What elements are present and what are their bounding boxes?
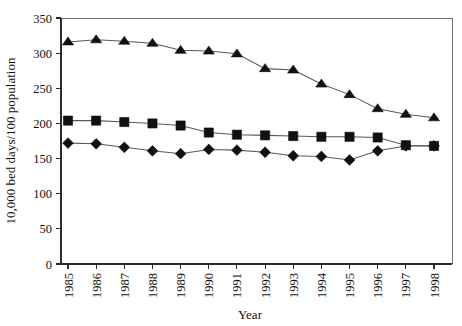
data-series-square bbox=[63, 116, 438, 151]
data-point-square-icon bbox=[373, 133, 382, 142]
y-tick-label: 250 bbox=[33, 82, 52, 96]
data-point-square-icon bbox=[204, 128, 213, 137]
x-tick-label: 1990 bbox=[202, 273, 216, 298]
data-point-diamond-icon bbox=[63, 138, 74, 149]
data-series-triangle bbox=[62, 35, 439, 121]
x-tick-label: 1996 bbox=[371, 273, 385, 298]
x-tick-label: 1993 bbox=[287, 273, 301, 298]
data-point-square-icon bbox=[317, 132, 326, 141]
data-point-triangle-icon bbox=[372, 104, 383, 112]
data-point-diamond-icon bbox=[119, 142, 130, 153]
y-tick-label: 100 bbox=[33, 187, 52, 201]
y-axis-title: 10,000 bed days/100 population bbox=[3, 57, 18, 224]
data-point-square-icon bbox=[289, 131, 298, 140]
y-tick-label: 0 bbox=[46, 258, 52, 272]
y-tick-label: 300 bbox=[33, 47, 52, 61]
data-point-square-icon bbox=[120, 117, 129, 126]
data-point-triangle-icon bbox=[316, 79, 327, 87]
data-point-square-icon bbox=[345, 132, 354, 141]
x-tick-label: 1995 bbox=[343, 273, 357, 298]
y-tick-label: 200 bbox=[33, 117, 52, 131]
data-point-diamond-icon bbox=[147, 145, 158, 156]
data-point-diamond-icon bbox=[175, 148, 186, 159]
data-point-diamond-icon bbox=[316, 151, 327, 162]
y-tick-label: 350 bbox=[33, 12, 52, 26]
data-point-diamond-icon bbox=[288, 150, 299, 161]
data-point-triangle-icon bbox=[288, 65, 299, 73]
data-point-triangle-icon bbox=[119, 36, 130, 44]
data-point-square-icon bbox=[176, 121, 185, 130]
x-tick-label: 1986 bbox=[90, 273, 104, 298]
plot-frame bbox=[61, 18, 452, 264]
x-axis-title: Year bbox=[238, 307, 263, 322]
data-series-group bbox=[62, 35, 439, 166]
x-tick-label: 1985 bbox=[62, 273, 76, 298]
x-tick-label: 1997 bbox=[399, 273, 413, 298]
data-point-triangle-icon bbox=[231, 49, 242, 57]
x-tick-label: 1988 bbox=[146, 273, 160, 298]
x-tick-label: 1989 bbox=[174, 273, 188, 298]
data-point-diamond-icon bbox=[232, 145, 243, 156]
data-point-diamond-icon bbox=[260, 147, 271, 158]
x-tick-label: 1994 bbox=[315, 272, 329, 298]
data-point-triangle-icon bbox=[259, 64, 270, 72]
chart-canvas: 050100150200250300350 198519861987198819… bbox=[0, 0, 462, 326]
x-axis-ticks: 1985198619871988198919901991199219931994… bbox=[62, 264, 442, 298]
data-series-diamond bbox=[63, 138, 440, 166]
data-point-triangle-icon bbox=[203, 46, 214, 54]
y-tick-label: 150 bbox=[33, 152, 52, 166]
x-tick-label: 1992 bbox=[259, 273, 273, 298]
x-tick-label: 1991 bbox=[230, 273, 244, 298]
data-point-square-icon bbox=[148, 119, 157, 128]
data-point-triangle-icon bbox=[147, 38, 158, 46]
data-point-diamond-icon bbox=[372, 145, 383, 156]
data-point-square-icon bbox=[92, 116, 101, 125]
data-point-square-icon bbox=[63, 116, 72, 125]
data-point-square-icon bbox=[260, 131, 269, 140]
y-axis-ticks: 050100150200250300350 bbox=[33, 12, 61, 272]
data-point-diamond-icon bbox=[203, 144, 214, 155]
data-point-triangle-icon bbox=[91, 35, 102, 43]
x-tick-label: 1998 bbox=[428, 273, 442, 298]
data-point-diamond-icon bbox=[91, 138, 102, 149]
chart-figure: 050100150200250300350 198519861987198819… bbox=[0, 0, 462, 326]
x-tick-label: 1987 bbox=[118, 273, 132, 298]
data-point-square-icon bbox=[232, 130, 241, 139]
y-tick-label: 50 bbox=[40, 222, 53, 236]
data-point-diamond-icon bbox=[344, 155, 355, 166]
data-point-triangle-icon bbox=[62, 37, 73, 45]
